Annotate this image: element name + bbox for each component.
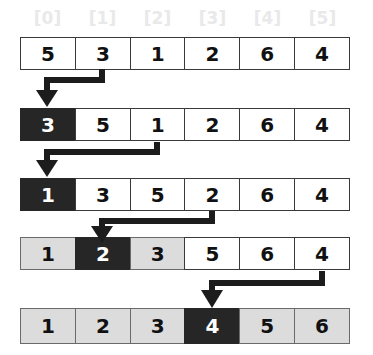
cell-r3-c1: 3 (75, 178, 131, 211)
cell-r5-c0: 1 (20, 308, 76, 344)
cell-r2-c1: 5 (75, 108, 131, 141)
index-label-2: [2] (130, 5, 185, 31)
index-label-3: [3] (185, 5, 240, 31)
cell-r3-c2: 5 (130, 178, 186, 211)
cell-r1-c4: 6 (239, 37, 295, 70)
cell-r4-c2: 3 (130, 237, 186, 270)
array-row-1: 5 3 1 2 6 4 (20, 37, 350, 70)
index-label-0: [0] (20, 5, 75, 31)
cell-r4-c1: 2 (75, 237, 131, 270)
cell-r2-c2: 1 (130, 108, 186, 141)
cell-r2-c5: 4 (294, 108, 350, 141)
arrow-4-swap-indicator (201, 271, 322, 308)
cell-r3-c4: 6 (239, 178, 295, 211)
cell-r1-c3: 2 (184, 37, 240, 70)
cell-r5-c2: 3 (130, 308, 186, 344)
cell-r5-c1: 2 (75, 308, 131, 344)
index-label-1: [1] (75, 5, 130, 31)
cell-r4-c3: 5 (184, 237, 240, 270)
diagram-canvas: [0] [1] [2] [3] [4] [5] 5 3 1 2 6 4 3 5 … (0, 0, 373, 355)
cell-r1-c0: 5 (20, 37, 76, 70)
cell-r2-c4: 6 (239, 108, 295, 141)
array-row-4: 1 2 3 5 6 4 (20, 237, 350, 270)
cell-r5-c4: 5 (239, 308, 295, 344)
cell-r2-c3: 2 (184, 108, 240, 141)
arrow-1-swap-indicator (36, 69, 102, 107)
cell-r5-c5: 6 (294, 308, 350, 344)
cell-r3-c0: 1 (20, 178, 76, 211)
cell-r1-c1: 3 (75, 37, 131, 70)
cell-r1-c5: 4 (294, 37, 350, 70)
index-label-4: [4] (240, 5, 295, 31)
cell-r4-c0: 1 (20, 237, 76, 270)
array-row-5: 1 2 3 4 5 6 (20, 308, 350, 344)
arrow-2-swap-indicator (36, 142, 157, 177)
cell-r3-c3: 2 (184, 178, 240, 211)
cell-r2-c0: 3 (20, 108, 76, 141)
cell-r4-c4: 6 (239, 237, 295, 270)
cell-r3-c5: 4 (294, 178, 350, 211)
cell-r5-c3: 4 (184, 308, 240, 344)
array-row-2: 3 5 1 2 6 4 (20, 108, 350, 141)
index-label-5: [5] (295, 5, 350, 31)
cell-r4-c5: 4 (294, 237, 350, 270)
array-row-3: 1 3 5 2 6 4 (20, 178, 350, 211)
index-label-row: [0] [1] [2] [3] [4] [5] (20, 5, 350, 31)
cell-r1-c2: 1 (130, 37, 186, 70)
